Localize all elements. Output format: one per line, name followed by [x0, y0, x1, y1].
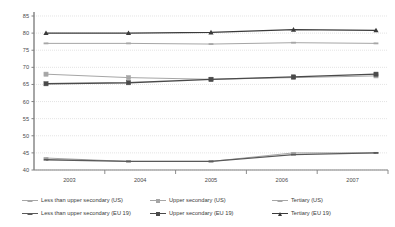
- legend-item-less-than-upper-secondary-us[interactable]: Less than upper secondary (US): [22, 197, 150, 205]
- plot-svg: 40455055606570758085 2003200420052006200…: [0, 0, 395, 190]
- legend-label: Tertiary (EU 19): [291, 211, 331, 217]
- svg-text:45: 45: [23, 150, 29, 156]
- legend-marker-square-icon: [150, 210, 166, 218]
- legend-marker-square-icon: [150, 197, 166, 205]
- series-line: [43, 27, 378, 35]
- plot-area: 40455055606570758085 2003200420052006200…: [0, 0, 395, 190]
- legend-row-us: Less than upper secondary (US) Upper sec…: [22, 194, 389, 207]
- legend-marker-dash-icon: [22, 197, 38, 205]
- legend-label: Upper secondary (US): [169, 198, 226, 204]
- y-tick-labels: 40455055606570758085: [23, 13, 34, 173]
- svg-text:80: 80: [23, 30, 29, 36]
- svg-text:50: 50: [23, 133, 29, 139]
- legend-label: Upper secondary (EU 19): [169, 211, 234, 217]
- legend-item-upper-secondary-us[interactable]: Upper secondary (US): [150, 197, 272, 205]
- svg-text:85: 85: [23, 13, 29, 19]
- data-series-group: [43, 27, 378, 162]
- legend-item-less-than-upper-secondary-eu19[interactable]: Less than upper secondary (EU 19): [22, 210, 150, 218]
- svg-text:75: 75: [23, 47, 29, 53]
- series-line: [44, 72, 378, 86]
- svg-text:70: 70: [23, 64, 29, 70]
- svg-text:65: 65: [23, 81, 29, 87]
- svg-text:2005: 2005: [205, 177, 217, 183]
- svg-text:2004: 2004: [134, 177, 146, 183]
- legend-row-eu19: Less than upper secondary (EU 19) Upper …: [22, 207, 389, 220]
- legend-item-tertiary-us[interactable]: Tertiary (US): [272, 197, 372, 205]
- svg-text:55: 55: [23, 116, 29, 122]
- line-chart: 40455055606570758085 2003200420052006200…: [0, 0, 395, 227]
- legend-item-tertiary-eu19[interactable]: Tertiary (EU 19): [272, 210, 372, 218]
- series-line: [44, 42, 379, 45]
- legend-label: Less than upper secondary (US): [41, 198, 123, 204]
- svg-text:2003: 2003: [63, 177, 75, 183]
- legend-marker-dash-icon: [272, 197, 288, 205]
- legend-label: Less than upper secondary (EU 19): [41, 211, 131, 217]
- svg-text:2006: 2006: [276, 177, 288, 183]
- legend-marker-dash-icon: [22, 210, 38, 218]
- legend-marker-triangle-icon: [272, 210, 288, 218]
- series-line: [44, 152, 379, 162]
- svg-text:60: 60: [23, 99, 29, 105]
- gridlines: [34, 16, 388, 170]
- x-tick-labels: 20032004200520062007: [63, 170, 388, 183]
- legend-item-upper-secondary-eu19[interactable]: Upper secondary (EU 19): [150, 210, 272, 218]
- svg-text:40: 40: [23, 167, 29, 173]
- chart-legend: Less than upper secondary (US) Upper sec…: [0, 191, 395, 227]
- svg-text:2007: 2007: [346, 177, 358, 183]
- legend-label: Tertiary (US): [291, 198, 323, 204]
